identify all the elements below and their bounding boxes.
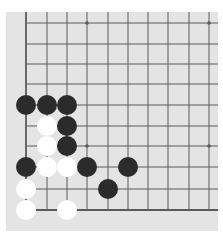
black-stone[interactable] (57, 95, 77, 115)
star-point (85, 144, 89, 148)
board-grid (6, 12, 223, 235)
black-stone[interactable] (57, 116, 77, 136)
white-stone[interactable] (37, 136, 57, 156)
black-stone[interactable] (118, 157, 138, 177)
star-point (207, 144, 211, 148)
black-stone[interactable] (16, 157, 36, 177)
black-stone[interactable] (37, 95, 57, 115)
black-stone[interactable] (98, 179, 118, 199)
go-board[interactable] (6, 12, 218, 231)
white-stone[interactable] (57, 200, 77, 220)
star-point (85, 21, 89, 25)
star-point (207, 21, 211, 25)
black-stone[interactable] (57, 136, 77, 156)
white-stone[interactable] (16, 200, 36, 220)
black-stone[interactable] (16, 95, 36, 115)
white-stone[interactable] (16, 179, 36, 199)
white-stone[interactable] (37, 116, 57, 136)
white-stone[interactable] (57, 157, 77, 177)
white-stone[interactable] (37, 157, 57, 177)
black-stone[interactable] (77, 157, 97, 177)
